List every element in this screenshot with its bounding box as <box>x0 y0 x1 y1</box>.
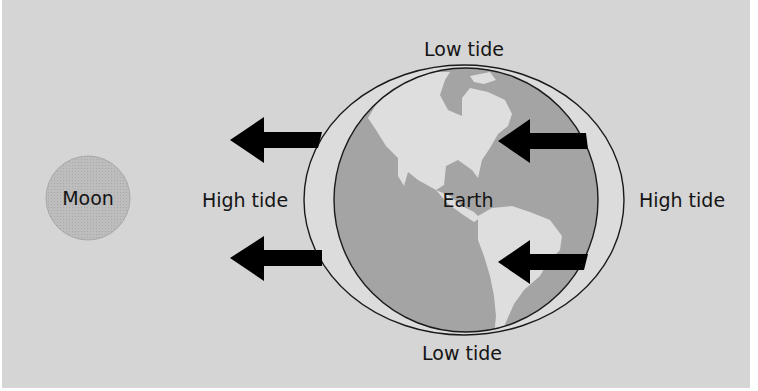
low-tide-top-label: Low tide <box>424 38 504 60</box>
arrow-left-lower-icon <box>230 236 322 281</box>
tide-diagram: Moon Earth Low tide Low tide High tide H… <box>0 0 758 391</box>
moon: Moon <box>46 156 130 240</box>
high-tide-left-label: High tide <box>202 189 288 211</box>
arrow-left-upper-icon <box>230 117 322 163</box>
moon-label: Moon <box>62 187 114 209</box>
high-tide-right-label: High tide <box>639 189 725 211</box>
earth-label: Earth <box>443 189 494 211</box>
low-tide-bottom-label: Low tide <box>422 342 502 364</box>
